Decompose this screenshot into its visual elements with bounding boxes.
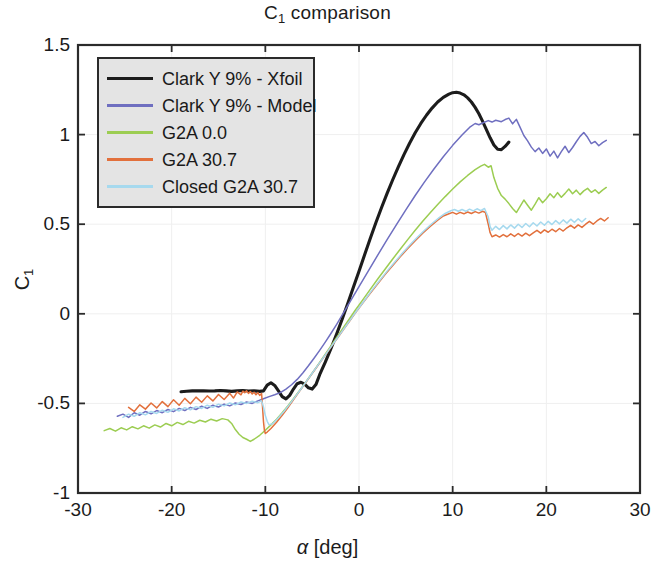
legend-label: Clark Y 9% - Xfoil xyxy=(162,70,302,88)
y-axis-label-main: C xyxy=(11,276,33,290)
y-axis-label-subscript: 1 xyxy=(21,269,36,276)
legend-row: Closed G2A 30.7 xyxy=(107,173,305,200)
x-axis-tick-label: -10 xyxy=(230,499,300,521)
x-axis-tick-label: 10 xyxy=(418,499,488,521)
legend-row: Clark Y 9% - Xfoil xyxy=(107,65,305,92)
x-axis-label: α [deg] xyxy=(0,536,655,559)
x-axis-tick-label: 30 xyxy=(605,499,655,521)
x-axis-tick-label: 20 xyxy=(511,499,581,521)
x-axis-label-unit: [deg] xyxy=(308,536,358,558)
legend-color-swatch xyxy=(107,158,153,161)
legend-color-swatch xyxy=(107,185,153,188)
x-axis-tick-label: 0 xyxy=(324,499,394,521)
x-axis-tick-label: -30 xyxy=(43,499,113,521)
y-axis-label: C1 xyxy=(11,240,34,320)
legend-label: Clark Y 9% - Model xyxy=(162,97,316,115)
legend-color-swatch xyxy=(107,104,153,107)
chart-legend: Clark Y 9% - XfoilClark Y 9% - ModelG2A … xyxy=(97,57,315,208)
legend-label: G2A 30.7 xyxy=(162,151,237,169)
legend-color-swatch xyxy=(107,131,153,134)
legend-label: Closed G2A 30.7 xyxy=(162,178,298,196)
legend-row: G2A 0.0 xyxy=(107,119,305,146)
legend-label: G2A 0.0 xyxy=(162,124,227,142)
legend-row: G2A 30.7 xyxy=(107,146,305,173)
x-axis-label-symbol: α xyxy=(297,536,308,558)
x-axis-tick-label: -20 xyxy=(137,499,207,521)
legend-row: Clark Y 9% - Model xyxy=(107,92,305,119)
legend-color-swatch xyxy=(107,77,153,80)
chart-figure: C1 comparison 1.510.50-0.5-1 -30-20-1001… xyxy=(0,0,655,572)
